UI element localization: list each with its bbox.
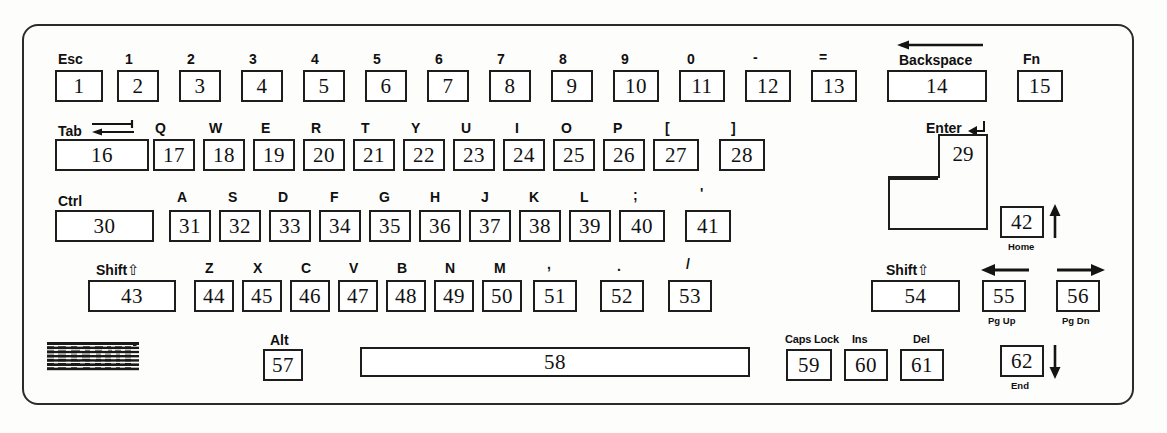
legend-c: C <box>301 261 311 275</box>
key-17-q[interactable]: 17 <box>153 139 195 171</box>
key-59-caps-lock[interactable]: 59 <box>786 349 832 381</box>
key-13-equals[interactable]: 13 <box>811 70 857 102</box>
key-25-o[interactable]: 25 <box>553 139 595 171</box>
key-15-fn[interactable]: 15 <box>1017 70 1063 102</box>
legend-semicolon: ; <box>633 188 638 202</box>
legend-t: T <box>361 121 370 135</box>
key-1-esc[interactable]: 1 <box>55 70 103 102</box>
legend-7: 7 <box>497 52 505 66</box>
key-23-u[interactable]: 23 <box>453 139 495 171</box>
key-52-period[interactable]: 52 <box>600 280 644 312</box>
key-46-c[interactable]: 46 <box>290 280 330 312</box>
key-21-t[interactable]: 21 <box>353 139 395 171</box>
key-22-y[interactable]: 22 <box>403 139 445 171</box>
legend-w: W <box>209 121 222 135</box>
legend-x: X <box>253 261 262 275</box>
tab-arrows-icon <box>88 118 136 138</box>
key-10-nine[interactable]: 10 <box>613 70 659 102</box>
legend-y: Y <box>411 121 420 135</box>
backspace-arrow-icon <box>897 40 985 50</box>
key-7-six[interactable]: 7 <box>427 70 469 102</box>
legend-1: 1 <box>125 52 133 66</box>
legend-period: . <box>617 259 621 273</box>
legend-h: H <box>430 190 440 204</box>
key-45-x[interactable]: 45 <box>242 280 282 312</box>
key-38-k[interactable]: 38 <box>519 210 561 242</box>
legend-bracket-right: ] <box>731 121 736 135</box>
key-56-arrow-right[interactable]: 56 <box>1056 280 1100 312</box>
key-16-tab[interactable]: 16 <box>55 139 149 171</box>
key-18-w[interactable]: 18 <box>203 139 245 171</box>
legend-l: L <box>580 190 589 204</box>
key-32-s[interactable]: 32 <box>219 210 261 242</box>
key-19-e[interactable]: 19 <box>253 139 295 171</box>
key-28-bracket-right[interactable]: 28 <box>719 139 765 171</box>
key-29-enter[interactable]: 29 <box>888 134 988 230</box>
legend-slash: / <box>686 257 690 271</box>
key-35-g[interactable]: 35 <box>369 210 411 242</box>
key-57-alt[interactable]: 57 <box>263 349 303 381</box>
right-arrow-icon <box>1055 263 1105 277</box>
key-8-seven[interactable]: 8 <box>489 70 531 102</box>
legend-b: B <box>397 261 407 275</box>
key-24-i[interactable]: 24 <box>503 139 545 171</box>
key-31-a[interactable]: 31 <box>169 210 211 242</box>
legend-9: 9 <box>621 52 629 66</box>
key-42-arrow-up[interactable]: 42 <box>1000 206 1044 238</box>
key-50-m[interactable]: 50 <box>482 280 522 312</box>
key-30-ctrl[interactable]: 30 <box>55 210 154 242</box>
key-9-eight[interactable]: 9 <box>551 70 593 102</box>
key-5-four[interactable]: 5 <box>303 70 345 102</box>
legend-del: Del <box>913 334 930 345</box>
legend-enter: Enter <box>926 121 962 135</box>
key-41-apostrophe[interactable]: 41 <box>685 210 731 242</box>
key-53-slash[interactable]: 53 <box>668 280 712 312</box>
legend-a: A <box>177 190 187 204</box>
legend-d: D <box>278 190 288 204</box>
enter-lower-body <box>888 178 988 230</box>
key-20-r[interactable]: 20 <box>303 139 345 171</box>
legend-shift-left: Shift⇧ <box>96 263 140 278</box>
key-61-del[interactable]: 61 <box>900 349 944 381</box>
key-36-h[interactable]: 36 <box>419 210 461 242</box>
key-6-five[interactable]: 6 <box>365 70 407 102</box>
key-39-l[interactable]: 39 <box>569 210 611 242</box>
legend-alt: Alt <box>270 333 289 347</box>
key-60-ins[interactable]: 60 <box>844 349 888 381</box>
key-58-spacebar[interactable]: 58 <box>360 347 750 377</box>
key-12-minus[interactable]: 12 <box>745 70 791 102</box>
key-37-j[interactable]: 37 <box>469 210 511 242</box>
key-51-comma[interactable]: 51 <box>533 280 577 312</box>
key-2-one[interactable]: 2 <box>117 70 159 102</box>
legend-p: P <box>613 121 622 135</box>
key-14-backspace[interactable]: 14 <box>887 70 987 102</box>
legend-3: 3 <box>249 52 257 66</box>
legend-8: 8 <box>559 52 567 66</box>
key-40-semicolon[interactable]: 40 <box>619 210 665 242</box>
key-3-two[interactable]: 3 <box>179 70 221 102</box>
key-55-arrow-left[interactable]: 55 <box>982 280 1026 312</box>
legend-u: U <box>461 121 471 135</box>
key-4-three[interactable]: 4 <box>241 70 283 102</box>
legend-minus: - <box>753 50 758 64</box>
key-62-arrow-down[interactable]: 62 <box>1000 345 1044 377</box>
key-43-shift-left[interactable]: 43 <box>88 280 176 312</box>
key-44-z[interactable]: 44 <box>194 280 234 312</box>
key-48-b[interactable]: 48 <box>386 280 426 312</box>
key-27-bracket-left[interactable]: 27 <box>653 139 699 171</box>
key-11-zero[interactable]: 11 <box>679 70 725 102</box>
up-arrow-icon <box>1048 204 1062 240</box>
legend-f: F <box>330 190 339 204</box>
key-34-f[interactable]: 34 <box>319 210 361 242</box>
key-49-n[interactable]: 49 <box>434 280 474 312</box>
key-47-v[interactable]: 47 <box>338 280 378 312</box>
key-33-d[interactable]: 33 <box>269 210 311 242</box>
legend-j: J <box>481 190 489 204</box>
key-26-p[interactable]: 26 <box>603 139 645 171</box>
shift-up-arrow-icon-right: ⇧ <box>917 261 930 279</box>
legend-q: Q <box>155 121 166 135</box>
legend-v: V <box>349 261 358 275</box>
legend-e: E <box>261 121 270 135</box>
legend-m: M <box>494 261 506 275</box>
key-54-shift-right[interactable]: 54 <box>871 280 960 312</box>
